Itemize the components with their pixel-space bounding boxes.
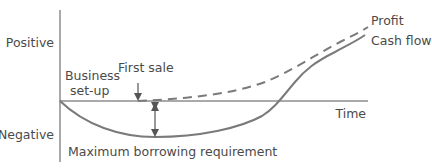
business-setup-label-line1: Business [65, 68, 120, 83]
x-axis-label: Time [334, 106, 366, 121]
cash-flow-diagram: Positive Negative Time Business set-up F… [0, 0, 432, 168]
max-borrowing-arrow-top [151, 103, 159, 111]
y-positive-label: Positive [6, 35, 54, 50]
max-borrowing-label: Maximum borrowing requirement [68, 144, 277, 159]
y-negative-label: Negative [0, 127, 54, 142]
first-sale-label: First sale [118, 60, 174, 75]
business-setup-label-line2: set-up [70, 83, 110, 98]
cash-flow-legend-label: Cash flow [371, 33, 432, 48]
profit-legend-label: Profit [371, 13, 404, 28]
